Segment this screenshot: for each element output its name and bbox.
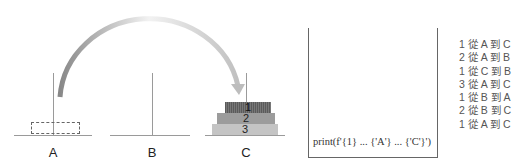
- peg-b-base: [110, 135, 190, 136]
- disk-3: 3: [212, 124, 278, 135]
- output-line: 1 從 C 到 B: [459, 65, 511, 78]
- output-line: 1 從 A 到 C: [459, 38, 511, 51]
- disk-2: 2: [217, 113, 275, 124]
- output-line: 1 從 A 到 C: [459, 118, 511, 131]
- output-list: 1 從 A 到 C 2 從 A 到 B 1 從 C 到 B 3 從 A 到 C …: [459, 38, 511, 131]
- print-statement: print(f'{1} ... {'A'} ... {'C'}'): [313, 136, 431, 147]
- empty-disk-slot: [31, 122, 80, 134]
- peg-b-pole: [152, 73, 153, 135]
- peg-c-label: C: [236, 145, 256, 160]
- peg-c-base: [205, 135, 285, 136]
- output-line: 3 從 A 到 C: [459, 78, 511, 91]
- code-box: print(f'{1} ... {'A'} ... {'C'}'): [308, 28, 438, 158]
- peg-b-label: B: [142, 145, 162, 160]
- peg-a-base: [14, 135, 92, 136]
- output-line: 2 從 A 到 B: [459, 51, 511, 64]
- output-line: 2 從 B 到 C: [459, 104, 511, 117]
- output-line: 1 從 B 到 A: [459, 91, 511, 104]
- disk-1: 1: [225, 102, 271, 113]
- peg-a-label: A: [43, 145, 63, 160]
